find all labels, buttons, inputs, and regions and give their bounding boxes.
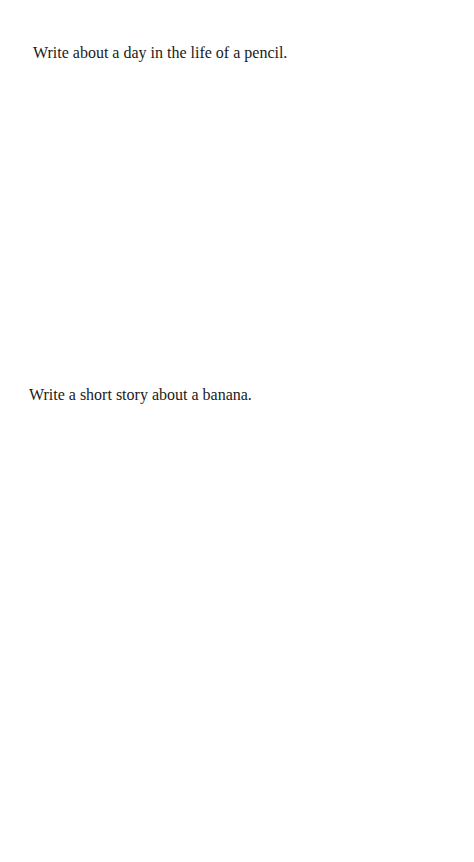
writing-prompt-pencil: Write about a day in the life of a penci…	[33, 43, 287, 63]
writing-prompt-banana: Write a short story about a banana.	[29, 385, 252, 405]
